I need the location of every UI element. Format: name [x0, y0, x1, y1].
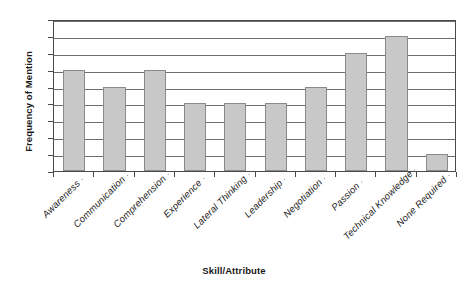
- x-tick-mark: [93, 172, 94, 177]
- x-tick-label-text: Passion: [329, 178, 364, 213]
- x-tick-mark: [53, 172, 54, 177]
- x-tick-label: Negotiation ·: [281, 173, 328, 220]
- bar: [144, 70, 166, 171]
- x-tick-mark: [295, 172, 296, 177]
- x-tick-mark: [174, 172, 175, 177]
- bar-chart-figure: Frequency of Mention 0123456789 Awarenes…: [0, 0, 468, 299]
- x-tick-mark: [375, 172, 376, 177]
- x-tick-mark: [134, 172, 135, 177]
- y-axis-title: Frequency of Mention: [23, 12, 34, 192]
- gridline: [54, 21, 455, 22]
- x-axis-title: Skill/Attribute: [0, 265, 468, 276]
- bar: [265, 103, 287, 171]
- bar: [103, 87, 125, 171]
- x-tick-label-text: Negotiation: [281, 175, 326, 220]
- x-tick-mark: [255, 172, 256, 177]
- bar: [184, 103, 206, 171]
- plot-area: [53, 20, 456, 172]
- x-tick-label: Passion ·: [329, 176, 366, 213]
- x-tick-mark: [214, 172, 215, 177]
- x-tick-mark: [456, 172, 457, 177]
- bar: [345, 53, 367, 171]
- bar: [385, 36, 407, 171]
- x-tick-label-text: Awareness: [40, 175, 84, 219]
- bar: [63, 70, 85, 171]
- x-tick-label-text: Leadership: [242, 175, 286, 219]
- bar: [224, 103, 246, 171]
- bar: [305, 87, 327, 171]
- x-tick-label-text: Technical Knowledge: [341, 166, 417, 242]
- x-tick-label: Technical Knowledge ·: [341, 164, 419, 242]
- x-tick-mark: [335, 172, 336, 177]
